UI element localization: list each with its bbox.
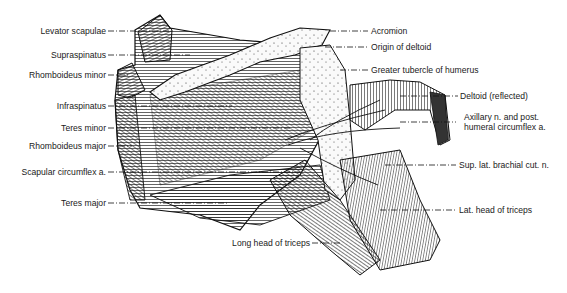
label-axillary-line2: humeral circumflex a.	[464, 122, 546, 132]
label-supraspinatus: Supraspinatus	[0, 50, 106, 60]
label-greater-tubercle: Greater tubercle of humerus	[371, 65, 478, 75]
deltoid-reflected	[350, 80, 450, 145]
label-rhomboideus-minor: Rhomboideus minor	[0, 70, 106, 80]
label-lat-head-triceps: Lat. head of triceps	[459, 205, 532, 215]
anatomy-figure: Levator scapulae Supraspinatus Rhomboide…	[0, 0, 567, 293]
label-axillary-nerve: Axillary n. and post. humeral circumflex…	[464, 112, 546, 132]
label-acromion: Acromion	[371, 26, 407, 36]
label-teres-major: Teres major	[0, 198, 106, 208]
label-infraspinatus: Infraspinatus	[0, 101, 106, 111]
label-deltoid-reflected: Deltoid (reflected)	[460, 91, 528, 101]
label-scapular-circumflex: Scapular circumflex a.	[0, 167, 106, 177]
label-teres-minor: Teres minor	[0, 123, 106, 133]
triceps	[270, 150, 440, 275]
label-levator-scapulae: Levator scapulae	[0, 26, 106, 36]
label-long-head-triceps: Long head of triceps	[200, 238, 310, 248]
label-rhomboideus-major: Rhomboideus major	[0, 141, 106, 151]
label-sup-lat-brachial: Sup. lat. brachial cut. n.	[459, 160, 549, 170]
label-axillary-line1: Axillary n. and post.	[464, 112, 546, 122]
label-origin-deltoid: Origin of deltoid	[371, 42, 431, 52]
